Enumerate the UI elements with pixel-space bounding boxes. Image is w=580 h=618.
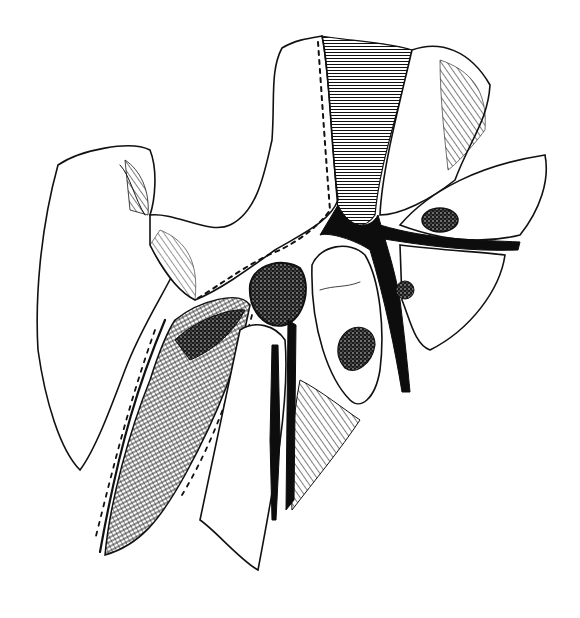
- central-dark-mass: [250, 263, 306, 326]
- upper-central-mass: [150, 36, 338, 300]
- lower-right-area: [396, 245, 505, 350]
- anatomical-engraving: [0, 0, 580, 618]
- small-nodule: [396, 281, 414, 299]
- illustration-canvas: [0, 0, 580, 618]
- right-nodule: [422, 208, 458, 232]
- central-rounded-lobe: [312, 246, 382, 403]
